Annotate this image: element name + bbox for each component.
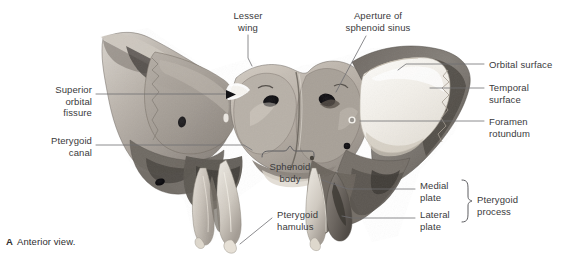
label-superior-orbital-fissure: Superior orbital fissure bbox=[20, 84, 92, 119]
label-lateral-plate: Lateral plate bbox=[420, 209, 466, 232]
leader-pterygoid-hamulus bbox=[240, 218, 272, 244]
label-pterygoid-process: Pterygoid process bbox=[477, 194, 549, 217]
label-pterygoid-hamulus: Pterygoid hamulus bbox=[277, 209, 363, 232]
label-aperture-of-sphenoid-sinus: Aperture of sphenoid sinus bbox=[320, 10, 436, 33]
label-foramen-rotundum: Foramen rotundum bbox=[489, 116, 561, 139]
label-sphenoid-body: Sphenoid body bbox=[250, 161, 330, 184]
caption-text: Anterior view. bbox=[17, 236, 75, 247]
label-medial-plate: Medial plate bbox=[420, 180, 466, 203]
label-orbital-surface: Orbital surface bbox=[489, 59, 561, 71]
figure-caption: AAnterior view. bbox=[6, 236, 75, 247]
label-temporal-surface: Temporal surface bbox=[489, 82, 561, 105]
caption-letter: A bbox=[6, 236, 13, 247]
label-lesser-wing: Lesser wing bbox=[208, 10, 288, 33]
label-pterygoid-canal: Pterygoid canal bbox=[20, 135, 92, 158]
